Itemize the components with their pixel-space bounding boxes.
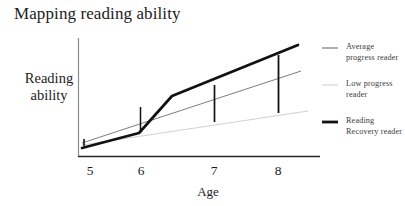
- legend-item-reading-recovery-reader: Reading Recovery reader: [322, 116, 404, 144]
- legend-item-low-progress-reader: Low progress reader: [322, 79, 404, 107]
- legend-swatch-line-thick-black: [322, 116, 338, 129]
- legend-label-reading-recovery-reader: Reading Recovery reader: [346, 116, 404, 137]
- x-tick-label-7: 7: [202, 163, 226, 179]
- legend-label-average-progress-reader: Average progress reader: [346, 42, 404, 63]
- x-tick-label-8: 8: [266, 163, 290, 179]
- chart-legend: Average progress reader Low progress rea…: [322, 42, 404, 153]
- legend-label-low-progress-reader: Low progress reader: [346, 79, 404, 100]
- series-average-progress-reader: [82, 71, 301, 143]
- chart-figure: Mapping reading ability Reading ability …: [0, 0, 405, 206]
- legend-item-average-progress-reader: Average progress reader: [322, 42, 404, 70]
- x-axis-label: Age: [178, 184, 238, 200]
- x-tick-label-5: 5: [78, 163, 102, 179]
- legend-swatch-line-thin-gray: [322, 42, 338, 55]
- legend-swatch-line-thin-light-gray: [322, 79, 338, 92]
- x-tick-label-6: 6: [129, 163, 153, 179]
